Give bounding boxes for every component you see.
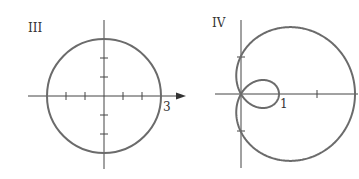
panel-iv: IV 1 <box>212 16 358 168</box>
panel-label: IV <box>212 16 226 30</box>
axis-label: 3 <box>163 100 171 114</box>
panel-label: III <box>28 21 42 35</box>
x-axis-arrow-icon <box>176 93 186 100</box>
polar-graphs-figure: III 3 IV 1 <box>0 0 359 179</box>
axis-label: 1 <box>280 97 288 111</box>
panel-iii: III 3 <box>28 20 186 169</box>
